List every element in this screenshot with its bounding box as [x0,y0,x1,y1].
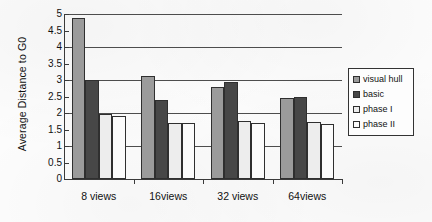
y-tick-label: 2.5 [36,92,62,102]
bar [168,123,182,179]
y-tick-mark [64,47,69,48]
legend-label: phase II [363,120,395,129]
y-tick-mark [64,64,69,65]
bar-group [64,14,134,179]
y-tick-label: 5 [36,9,62,19]
bar-group [203,14,273,179]
bar [112,116,126,179]
legend-label: visual hull [363,75,403,84]
legend-item: basic [353,87,410,102]
y-tick-label: 4.5 [36,26,62,36]
x-tick-mark [273,179,274,184]
y-tick-mark [64,179,69,180]
y-tick-label: 0 [36,174,62,184]
y-tick-mark [64,14,69,15]
bar [307,122,321,179]
bar [280,98,294,179]
legend-label: phase I [363,105,393,114]
legend-swatch-icon [353,121,360,128]
legend-swatch-icon [353,106,360,113]
bar [141,76,155,179]
y-axis-title: Average Distance to G0 [16,9,28,179]
y-tick-label: 3.5 [36,59,62,69]
y-tick-label: 1 [36,141,62,151]
legend-swatch-icon [353,91,360,98]
legend-item: phase I [353,102,410,117]
legend-item: visual hull [353,72,410,87]
x-tick-mark [134,179,135,184]
y-tick-mark [64,113,69,114]
x-tick-label: 16views [128,190,208,202]
bar [321,124,335,179]
x-tick-mark [342,179,343,184]
x-tick-label: 32 views [198,190,278,202]
plot-area [64,14,342,179]
y-tick-mark [64,146,69,147]
y-tick-label: 0.5 [36,158,62,168]
y-tick-label: 3 [36,75,62,85]
y-tick-label: 4 [36,42,62,52]
y-tick-mark [64,130,69,131]
bar-group [134,14,204,179]
y-tick-mark [64,31,69,32]
bar [72,18,86,179]
bar [99,114,113,179]
bar-group [273,14,343,179]
bar [85,80,99,179]
x-tick-label: 8 views [59,190,139,202]
y-tick-label: 1.5 [36,125,62,135]
bar [294,97,308,180]
y-tick-mark [64,97,69,98]
legend-item: phase II [353,117,410,132]
y-tick-label: 2 [36,108,62,118]
bar [238,121,252,179]
bar [251,123,265,179]
legend-swatch-icon [353,76,360,83]
bar [182,123,196,179]
bar [224,82,238,179]
chart-legend: visual hullbasicphase Iphase II [348,68,414,136]
x-tick-mark [203,179,204,184]
y-axis-tick-labels: 00.511.522.533.544.55 [32,0,62,222]
x-tick-label: 64views [267,190,347,202]
bar-chart: Average Distance to G0 00.511.522.533.54… [0,0,432,222]
bar [155,100,169,179]
bar [211,87,225,179]
y-tick-mark [64,80,69,81]
legend-label: basic [363,90,384,99]
y-tick-mark [64,163,69,164]
